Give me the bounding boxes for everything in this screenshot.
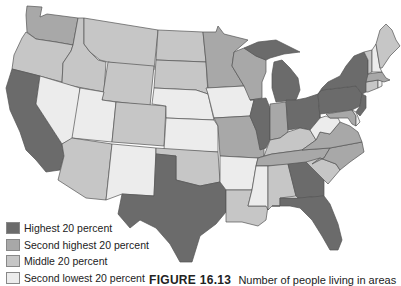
legend-swatch-middle: [6, 255, 20, 267]
state-CO: [112, 102, 166, 146]
legend-item-middle: Middle 20 percent: [6, 253, 149, 269]
map-legend: Highest 20 percent Second highest 20 per…: [6, 220, 149, 286]
legend-label: Highest 20 percent: [24, 222, 112, 234]
state-AR: [220, 156, 258, 190]
state-ME: [376, 24, 400, 68]
state-MI: [272, 60, 300, 102]
figure-number: FIGURE 16.13: [149, 273, 231, 286]
state-ND: [156, 30, 206, 62]
legend-item-highest: Highest 20 percent: [6, 220, 149, 236]
caption-text: Number of people living in areas: [238, 274, 396, 286]
state-NM: [106, 144, 156, 200]
figure-caption: FIGURE 16.13 Number of people living in …: [149, 273, 396, 286]
legend-label: Middle 20 percent: [24, 255, 107, 267]
legend-label: Second lowest 20 percent: [24, 272, 145, 284]
legend-swatch-second-lowest: [6, 272, 20, 284]
state-FL: [272, 196, 342, 250]
legend-item-second-lowest: Second lowest 20 percent: [6, 270, 149, 286]
legend-swatch-highest: [6, 222, 20, 234]
legend-label: Second highest 20 percent: [24, 239, 149, 251]
state-WY: [102, 62, 154, 106]
legend-swatch-second-highest: [6, 239, 20, 251]
legend-item-second-highest: Second highest 20 percent: [6, 237, 149, 253]
state-KS: [164, 118, 218, 152]
state-AZ: [58, 138, 112, 200]
state-NY: [318, 52, 368, 94]
